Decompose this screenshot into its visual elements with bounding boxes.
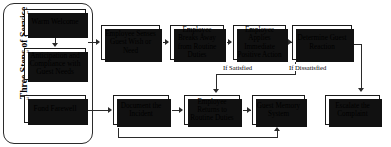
process-box-employee-applies-action[interactable]: Employee Applies Immediate Positive Acti… [233,25,286,60]
connector-if-satisfied-horizontal [216,74,296,75]
step-label-anticipation-compliance: Anticipation and Compliance with Guest N… [27,52,83,77]
connector-if-dissatisfied-arrowhead [358,88,364,92]
connector-returns-to-memory-arrowhead [247,107,251,113]
step-box-warm-welcome[interactable]: 1 Warm Welcome [24,9,86,36]
connector-feedback-up [277,131,278,138]
process-label-employee-applies-action: Employee Applies Immediate Positive Acti… [236,26,283,58]
process-box-guest-memory-system[interactable]: Guest Memory System [252,95,305,125]
connector-if-satisfied-arrowhead [213,89,219,93]
connector-senses-to-breaks-arrowhead [165,39,169,45]
connector-feedback-horizontal [118,137,278,138]
process-label-guest-memory-system: Guest Memory System [255,102,302,118]
process-box-document-the-incident[interactable]: Document the Incident [113,95,169,125]
process-box-determine-guest-reaction[interactable]: Determine Guest Reaction [292,25,352,60]
edge-label-if-dissatisfied: If Dissatisfied [288,64,327,71]
process-label-employee-breaks-away: Employee Breaks Away from Routine Duties [173,26,221,58]
process-label-document-the-incident: Document the Incident [116,102,166,118]
connector-breaks-to-applies-arrowhead [228,39,232,45]
process-label-determine-guest-reaction: Determine Guest Reaction [295,34,349,50]
step-label-warm-welcome: Warm Welcome [27,18,83,26]
flowchart-canvas: Three Steps of Service 1 Warm Welcome 2 … [0,0,391,147]
process-label-employee-senses-guest-wish: Employee Senses Guest Wish or Need [104,30,157,54]
process-box-employee-senses-guest-wish[interactable]: Employee Senses Guest Wish or Need [101,25,160,60]
process-label-employee-returns-routine: Employee Returns to Routine Duties [187,98,237,122]
process-box-escalate-the-complaint[interactable]: Escalate the Complaint [325,95,380,125]
connector-document-to-returns-arrowhead [179,107,183,113]
connector-feedback-arrowhead [274,127,280,131]
connector-step2-to-senses-arrowhead [96,39,100,45]
step-number-2: 2 [27,49,30,54]
process-label-escalate-the-complaint: Escalate the Complaint [328,102,377,118]
process-box-employee-returns-routine[interactable]: Employee Returns to Routine Duties [184,95,240,125]
edge-label-if-satisfied: If Satisfied [222,64,253,71]
connector-step3-to-document-line [88,110,110,111]
step-box-anticipation-compliance[interactable]: 2 Anticipation and Compliance with Guest… [24,48,86,80]
connector-if-dissatisfied-vertical [361,44,362,89]
step-label-fond-farewell: Fond Farewell [27,105,83,113]
step-number-1: 1 [27,10,30,15]
step-number-3: 3 [27,96,30,101]
connector-step3-to-document-arrowhead [108,107,112,113]
step-box-fond-farewell[interactable]: 3 Fond Farewell [24,95,86,123]
connector-step1-to-step2-arrowhead [52,43,58,47]
process-box-employee-breaks-away[interactable]: Employee Breaks Away from Routine Duties [170,25,224,60]
